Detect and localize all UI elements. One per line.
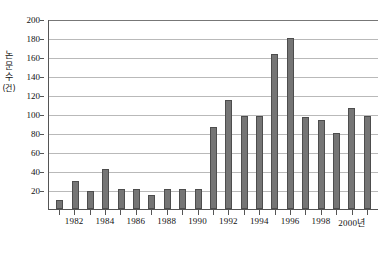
- bar: [72, 181, 79, 209]
- bar: [102, 169, 109, 209]
- bar: [179, 189, 186, 209]
- bar: [148, 195, 155, 209]
- bar: [364, 116, 371, 209]
- plot-area: [48, 20, 378, 210]
- bar-slot-1997: [298, 20, 313, 209]
- y-tick-label-140: 140: [0, 72, 40, 82]
- y-tick-mark-140: [40, 77, 44, 78]
- bar-slot-1993: [237, 20, 252, 209]
- x-tick-label-1982: 1982: [65, 216, 84, 226]
- y-tick-label-180: 180: [0, 34, 40, 44]
- y-tick-label-100: 100: [0, 110, 40, 120]
- bar-slot-1986: [129, 20, 144, 209]
- y-tick-label-40: 40: [0, 167, 40, 177]
- x-axis-labels: 1982198419861988199019921994199619982000…: [48, 216, 378, 232]
- bar-series: [49, 20, 378, 209]
- bar-slot-1987: [144, 20, 159, 209]
- bar: [271, 54, 278, 209]
- bar-slot-1988: [160, 20, 175, 209]
- x-tick-label-1984: 1984: [96, 216, 115, 226]
- y-tick-mark-160: [40, 58, 44, 59]
- x-tick-label-1988: 1988: [157, 216, 176, 226]
- bar-chart: 논 문 수 (건) 20018016014012010080604020 198…: [0, 0, 391, 255]
- bar: [195, 189, 202, 209]
- bar: [256, 116, 263, 209]
- y-tick-mark-180: [40, 39, 44, 40]
- bar-slot-1984: [98, 20, 113, 209]
- y-tick-label-20: 20: [0, 186, 40, 196]
- bar-slot-1989: [175, 20, 190, 209]
- x-tick-label-1998: 1998: [312, 216, 331, 226]
- y-tick-label-60: 60: [0, 148, 40, 158]
- x-tick-label-1990: 1990: [188, 216, 207, 226]
- bar: [225, 100, 232, 209]
- bar-slot-1990: [190, 20, 205, 209]
- bar-slot-1981: [52, 20, 67, 209]
- bar: [210, 127, 217, 209]
- y-tick-mark-120: [40, 96, 44, 97]
- bar: [348, 108, 355, 209]
- bar: [287, 38, 294, 209]
- bar-slot-1999: [329, 20, 344, 209]
- y-tick-mark-100: [40, 115, 44, 116]
- bar: [133, 189, 140, 209]
- y-tick-label-80: 80: [0, 129, 40, 139]
- bar: [164, 189, 171, 209]
- bar: [241, 116, 248, 209]
- x-tick-label-1994: 1994: [250, 216, 269, 226]
- bar-slot-1991: [206, 20, 221, 209]
- bar: [118, 189, 125, 209]
- bar: [87, 191, 94, 209]
- bar: [318, 120, 325, 209]
- bar: [333, 133, 340, 209]
- y-tick-mark-40: [40, 172, 44, 173]
- bar-slot-1983: [83, 20, 98, 209]
- bar: [56, 200, 63, 210]
- x-tick-label-1986: 1986: [126, 216, 145, 226]
- y-tick-mark-200: [40, 20, 44, 21]
- bar: [302, 117, 309, 209]
- x-tick-label-2000: 2000년: [338, 216, 365, 229]
- bar-slot-1992: [221, 20, 236, 209]
- y-tick-mark-20: [40, 191, 44, 192]
- y-axis-ticks: 20018016014012010080604020: [0, 20, 44, 210]
- bar-slot-1996: [283, 20, 298, 209]
- bar-slot-1994: [252, 20, 267, 209]
- bar-slot-2001: [360, 20, 375, 209]
- bar-slot-2000: [344, 20, 359, 209]
- bar-slot-1995: [267, 20, 282, 209]
- y-tick-mark-60: [40, 153, 44, 154]
- y-tick-label-200: 200: [0, 15, 40, 25]
- y-tick-label-120: 120: [0, 91, 40, 101]
- y-tick-label-160: 160: [0, 53, 40, 63]
- y-tick-mark-80: [40, 134, 44, 135]
- bar-slot-1985: [114, 20, 129, 209]
- bar-slot-1998: [313, 20, 328, 209]
- bar-slot-1982: [67, 20, 82, 209]
- x-tick-label-1992: 1992: [219, 216, 238, 226]
- x-tick-label-1996: 1996: [281, 216, 300, 226]
